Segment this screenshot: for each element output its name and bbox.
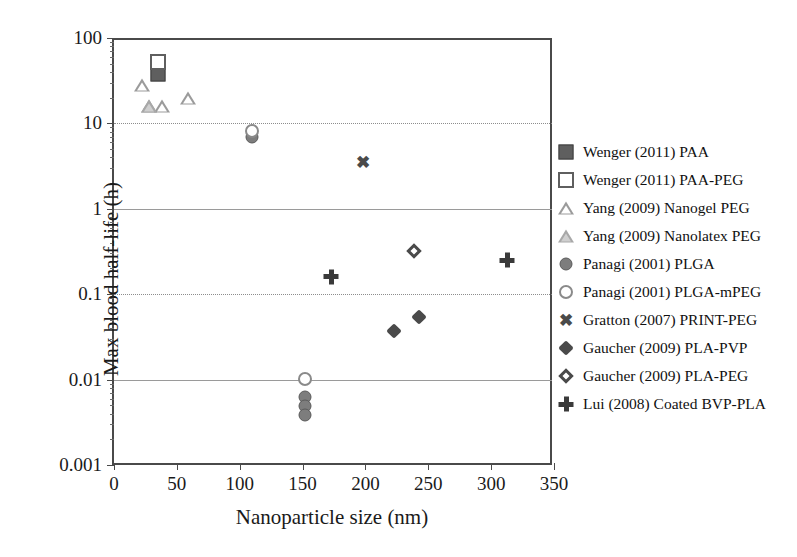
y-tick-minor	[110, 424, 114, 425]
y-tick-minor	[110, 46, 114, 47]
legend-item[interactable]: Yang (2009) Nanogel PEG	[556, 194, 794, 222]
legend-label: Yang (2009) Nanolatex PEG	[583, 227, 761, 245]
y-tick-minor	[110, 399, 114, 400]
legend-item[interactable]: Gaucher (2009) PLA-PVP	[556, 334, 794, 362]
scatter-plot-figure: 0.0010.010.1110100 050100150200250300350…	[0, 0, 797, 557]
data-point-filled-diamond	[387, 323, 403, 339]
y-tick-label-10: 10	[83, 112, 102, 134]
legend-open-square-icon	[558, 172, 574, 188]
y-tick-minor	[110, 388, 114, 389]
legend-open-diamond-icon	[558, 368, 574, 384]
y-tick-minor	[110, 72, 114, 73]
plot-frame-top	[114, 38, 552, 40]
data-point-open-circle	[298, 372, 312, 386]
data-point-filled-diamond	[412, 309, 428, 325]
x-tick-label-0: 0	[109, 473, 119, 495]
x-tick-label-250: 250	[414, 473, 443, 495]
legend-label: Gaucher (2009) PLA-PVP	[583, 339, 747, 357]
legend-x-icon: ✖	[559, 313, 574, 328]
legend-marker-x-icon: ✖	[556, 310, 576, 330]
x-tick-150	[303, 463, 304, 470]
x-tick-300	[491, 463, 492, 470]
y-tick-minor	[110, 405, 114, 406]
x-tick-250	[428, 463, 429, 470]
gridline-y-0.01	[114, 380, 552, 381]
y-tick-minor	[110, 142, 114, 143]
y-tick-0.01	[107, 380, 114, 381]
data-point-open-triangle	[180, 91, 196, 104]
y-tick-minor	[110, 168, 114, 169]
data-point-plus	[500, 253, 515, 268]
data-point-open-circle	[245, 124, 259, 138]
y-tick-minor	[110, 98, 114, 99]
plot-frame-right	[550, 38, 552, 463]
y-tick-minor	[110, 393, 114, 394]
y-tick-minor	[110, 83, 114, 84]
legend-label: Gratton (2007) PRINT-PEG	[583, 311, 757, 329]
x-tick-label-350: 350	[540, 473, 569, 495]
data-point-plus	[324, 269, 339, 284]
y-tick-100	[107, 38, 114, 39]
legend-label: Lui (2008) Coated BVP-PLA	[583, 395, 766, 413]
y-tick-minor	[110, 132, 114, 133]
legend-item[interactable]: ✖Gratton (2007) PRINT-PEG	[556, 306, 794, 334]
legend-item[interactable]: Panagi (2001) PLGA	[556, 250, 794, 278]
gridline-y-10	[114, 123, 552, 124]
gridline-y-0.1	[114, 294, 552, 295]
legend-marker-open-square-icon	[556, 170, 576, 190]
x-tick-label-200: 200	[351, 473, 380, 495]
y-tick-minor	[110, 127, 114, 128]
y-tick-minor	[110, 157, 114, 158]
legend-open-triangle-icon	[558, 202, 574, 215]
y-tick-minor	[110, 51, 114, 52]
x-tick-label-50: 50	[167, 473, 186, 495]
x-tick-50	[177, 463, 178, 470]
legend-item[interactable]: Wenger (2011) PAA	[556, 138, 794, 166]
legend-item[interactable]: Panagi (2001) PLGA-mPEG	[556, 278, 794, 306]
plot-area: 0.0010.010.1110100 050100150200250300350…	[112, 38, 552, 465]
y-tick-minor	[110, 149, 114, 150]
legend-label: Panagi (2001) PLGA	[583, 255, 715, 273]
legend-label: Gaucher (2009) PLA-PEG	[583, 367, 748, 385]
legend-label: Wenger (2011) PAA-PEG	[583, 171, 743, 189]
x-tick-label-300: 300	[477, 473, 506, 495]
y-tick-minor	[110, 64, 114, 65]
y-tick-minor	[110, 439, 114, 440]
data-point-shaded-triangle	[141, 99, 157, 112]
y-tick-label-100: 100	[74, 27, 103, 49]
y-tick-label-0.001: 0.001	[59, 454, 102, 476]
legend-label: Wenger (2011) PAA	[583, 143, 709, 161]
legend-label: Yang (2009) Nanogel PEG	[583, 199, 750, 217]
legend-item[interactable]: Gaucher (2009) PLA-PEG	[556, 362, 794, 390]
x-axis-label: Nanoparticle size (nm)	[112, 505, 552, 530]
y-tick-minor	[110, 137, 114, 138]
data-point-open-triangle	[134, 79, 150, 92]
legend-filled-circle-icon	[560, 258, 573, 271]
legend-marker-open-circle-icon	[556, 282, 576, 302]
data-point-filled-circle	[299, 408, 312, 421]
legend-open-circle-icon	[559, 285, 573, 299]
x-tick-label-150: 150	[288, 473, 317, 495]
legend-item[interactable]: Yang (2009) Nanolatex PEG	[556, 222, 794, 250]
legend: Wenger (2011) PAAWenger (2011) PAA-PEGYa…	[556, 138, 794, 418]
legend-filled-diamond-icon	[558, 340, 574, 356]
y-tick-minor	[110, 57, 114, 58]
legend-item[interactable]: Wenger (2011) PAA-PEG	[556, 166, 794, 194]
y-tick-minor	[110, 384, 114, 385]
y-tick-10	[107, 123, 114, 124]
x-tick-100	[240, 463, 241, 470]
legend-item[interactable]: Lui (2008) Coated BVP-PLA	[556, 390, 794, 418]
x-tick-200	[365, 463, 366, 470]
y-tick-0.001	[107, 465, 114, 466]
x-tick-0	[114, 463, 115, 470]
legend-marker-plus-icon	[556, 394, 576, 414]
x-tick-label-100: 100	[225, 473, 254, 495]
data-point-open-diamond	[407, 243, 423, 259]
legend-label: Panagi (2001) PLGA-mPEG	[583, 283, 761, 301]
legend-marker-filled-circle-icon	[556, 254, 576, 274]
legend-marker-filled-diamond-icon	[556, 338, 576, 358]
y-tick-label-0.01: 0.01	[69, 369, 102, 391]
y-tick-minor	[110, 414, 114, 415]
data-point-open-square	[150, 54, 166, 70]
y-axis-label: Max blood half-life (h)	[99, 181, 124, 375]
